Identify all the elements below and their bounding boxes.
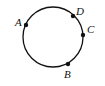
point-b-label: B — [64, 68, 71, 80]
circle-diagram: ADCB — [0, 0, 105, 86]
point-d-dot — [71, 14, 75, 18]
point-c-dot — [81, 33, 85, 37]
point-a-label: A — [14, 16, 22, 28]
point-c-label: C — [87, 23, 95, 35]
point-a-dot — [24, 23, 28, 27]
point-d-label: D — [75, 5, 84, 17]
point-b-dot — [66, 62, 70, 66]
